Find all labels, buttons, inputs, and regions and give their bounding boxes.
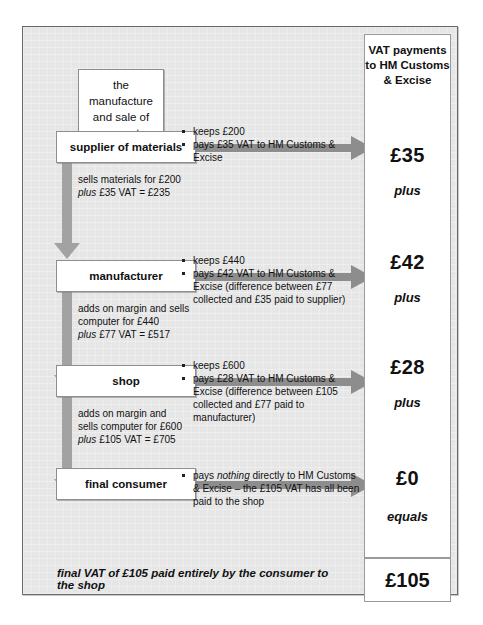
stage-label-final-consumer: final consumer — [85, 478, 167, 490]
list-item: keeps £600 — [180, 359, 365, 372]
vat-operator-3: plus — [365, 395, 450, 410]
stage-label-shop: shop — [112, 375, 139, 387]
title-line-2: manufacture — [89, 93, 153, 109]
stage-box-final-consumer: final consumer — [56, 468, 196, 500]
note-emphasis: plus — [78, 329, 96, 340]
note-emphasis: plus — [78, 187, 96, 198]
vat-operator-4: equals — [365, 509, 450, 524]
note-rest: £35 VAT = £235 — [96, 187, 170, 198]
vat-amount-shop: £28 — [365, 356, 450, 379]
diagram-panel: the manufacture and sale of a computer V… — [22, 26, 458, 595]
vat-column-heading: VAT payments to HM Customs & Excise — [365, 43, 450, 88]
note-rest: £105 VAT = £705 — [96, 434, 175, 445]
list-item: pays £42 VAT to HM Customs & Excise (dif… — [180, 267, 358, 306]
stage-label-supplier: supplier of materials — [70, 141, 182, 153]
bullet-prefix: pays — [193, 470, 217, 481]
summary-text: final VAT of £105 paid entirely by the c… — [57, 567, 347, 591]
note-line: adds on margin and sells — [78, 302, 238, 315]
flow-arrow-supplier-to-manufacturer — [54, 163, 80, 259]
total-vat-box: £105 — [364, 558, 451, 602]
bullets-final-consumer: pays nothing directly to HM Customs & Ex… — [180, 469, 365, 508]
total-vat-amount: £105 — [385, 569, 430, 592]
note-supplier: sells materials for £200 plus £35 VAT = … — [78, 173, 238, 199]
bullet-emphasis: nothing — [217, 470, 250, 481]
list-item: keeps £440 — [180, 254, 358, 267]
note-manufacturer: adds on margin and sells computer for £4… — [78, 302, 238, 341]
note-line: computer for £440 — [78, 315, 238, 328]
note-line: plus £105 VAT = £705 — [78, 433, 238, 446]
note-line: plus £77 VAT = £517 — [78, 328, 238, 341]
note-line: plus £35 VAT = £235 — [78, 186, 238, 199]
vat-amount-consumer: £0 — [365, 467, 450, 490]
note-shop: adds on margin and sells computer for £6… — [78, 407, 238, 446]
bullets-manufacturer: keeps £440 pays £42 VAT to HM Customs & … — [180, 254, 358, 306]
title-line-1: the — [113, 77, 129, 93]
note-rest: £77 VAT = £517 — [96, 329, 170, 340]
arrow-head-icon — [54, 243, 80, 259]
note-emphasis: plus — [78, 434, 96, 445]
note-line: sells computer for £600 — [78, 420, 238, 433]
stage-box-supplier-of-materials: supplier of materials — [56, 131, 196, 163]
list-item: pays nothing directly to HM Customs & Ex… — [180, 469, 365, 508]
stage-box-manufacturer: manufacturer — [56, 260, 196, 292]
arrow-shaft — [62, 292, 72, 375]
list-item: pays £35 VAT to HM Customs & Excise — [180, 138, 355, 164]
vat-operator-2: plus — [365, 290, 450, 305]
vat-operator-1: plus — [365, 183, 450, 198]
list-item: keeps £200 — [180, 125, 355, 138]
stage-box-shop: shop — [56, 365, 196, 397]
arrow-shaft — [62, 163, 72, 243]
vat-payments-column: VAT payments to HM Customs & Excise £35 … — [364, 34, 451, 558]
note-line: sells materials for £200 — [78, 173, 238, 186]
vat-amount-supplier: £35 — [365, 144, 450, 167]
note-line: adds on margin and — [78, 407, 238, 420]
title-line-3: and sale of — [93, 109, 149, 125]
vat-amount-manufacturer: £42 — [365, 251, 450, 274]
bullets-supplier: keeps £200 pays £35 VAT to HM Customs & … — [180, 125, 355, 164]
stage-label-manufacturer: manufacturer — [89, 270, 163, 282]
arrow-shaft — [62, 397, 72, 479]
